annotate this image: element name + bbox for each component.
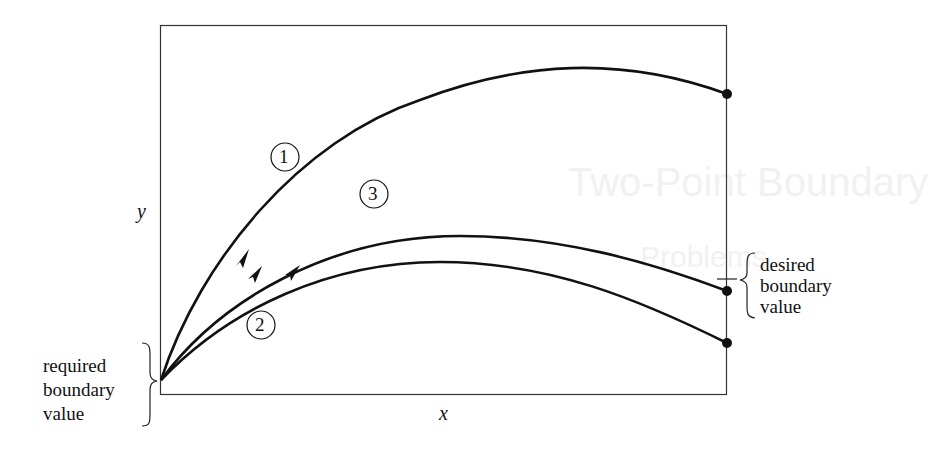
- desired-boundary-line2: boundary: [760, 276, 832, 296]
- arrow-icon: [248, 266, 262, 283]
- plot-frame: [161, 26, 727, 395]
- endpoint-dot-3: [722, 286, 732, 296]
- y-axis-label: y: [137, 201, 146, 221]
- trajectory-1: [161, 68, 727, 380]
- curve-label-3: 3: [368, 184, 378, 204]
- curve-label-1: 1: [279, 147, 289, 167]
- required-boundary-line1: required: [43, 356, 106, 376]
- required-boundary-line2: boundary: [43, 380, 115, 400]
- trajectory-2: [161, 262, 727, 380]
- curve-label-2: 2: [255, 315, 265, 335]
- required-boundary-line3: value: [43, 404, 84, 424]
- endpoint-dot-2: [722, 338, 732, 348]
- arrow-icon: [236, 249, 249, 268]
- arrow-icon: [285, 265, 300, 281]
- left-brace: [142, 343, 157, 426]
- desired-boundary-line1: desired: [760, 255, 815, 275]
- endpoint-dot-1: [722, 89, 732, 99]
- desired-boundary-line3: value: [760, 297, 801, 317]
- x-axis-label: x: [439, 403, 448, 423]
- right-brace: [740, 253, 755, 318]
